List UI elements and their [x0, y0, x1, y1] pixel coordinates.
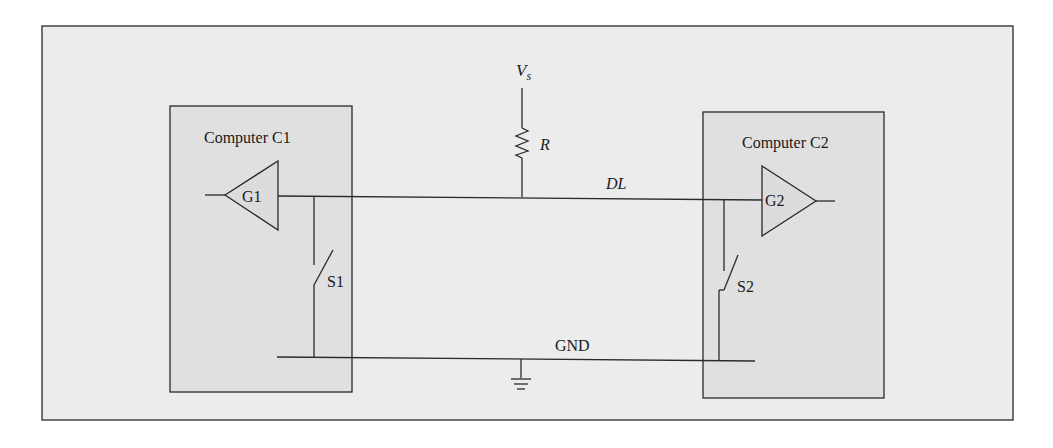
ground-label: GND	[555, 337, 590, 354]
computer-c1-label: Computer C1	[204, 129, 291, 147]
computer-c2-label: Computer C2	[742, 134, 829, 152]
resistor-label: R	[539, 136, 550, 153]
gate-g2-label: G2	[765, 192, 785, 209]
circuit-diagram: Computer C1 Computer C2	[0, 0, 1053, 448]
computer-c2-box: Computer C2	[703, 112, 884, 398]
data-line-label: DL	[605, 175, 627, 192]
switch-s2-label: S2	[737, 278, 754, 295]
switch-s1-label: S1	[327, 273, 344, 290]
computer-c1-box: Computer C1	[170, 106, 352, 392]
gate-g1-label: G1	[242, 188, 262, 205]
